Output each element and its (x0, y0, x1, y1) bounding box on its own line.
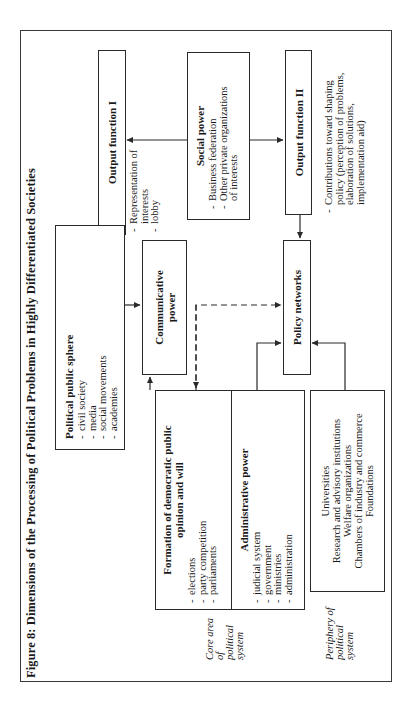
arrow-periphery-to-policy (312, 343, 345, 390)
output-function-1-title: Output function I (106, 101, 118, 184)
communicative-power-title-line2: power (165, 293, 177, 322)
social-power-box: Social power Business federation Other p… (187, 52, 250, 220)
formation-title-line2: opinion and will (173, 391, 185, 603)
core-area-label-line: system (235, 610, 245, 660)
periphery-institution: Welfare organizations (342, 445, 353, 537)
political-public-sphere-title: Political public sphere (63, 226, 75, 439)
social-power-item: Other private organizations of interests (219, 81, 240, 209)
administrative-power-section: Administrative power judicial system gov… (233, 391, 304, 609)
periphery-label-line: system (345, 600, 355, 660)
administrative-power-item: ministries (273, 391, 284, 603)
formation-list: elections party competition parliaments (187, 391, 219, 603)
policy-networks-title: Policy networks (291, 270, 303, 345)
output-function-1-box: Output function I (98, 50, 126, 235)
periphery-institution: Foundations (364, 465, 375, 517)
administrative-power-list: judicial system government ministries ad… (252, 391, 294, 603)
administrative-power-item: judicial system (252, 391, 263, 603)
communicative-power-title-line1: Communicative (153, 270, 165, 345)
dashed-arrow-to-policy (196, 305, 281, 390)
periphery-institution: Universities (320, 466, 331, 517)
administrative-power-item: administration (284, 391, 295, 603)
output-function-2-item: Contributions toward shaping policy (per… (324, 63, 366, 213)
periphery-institution: Research and advisory institutions (331, 419, 342, 563)
social-power-list: Business federation Other private organi… (208, 53, 240, 209)
output-function-1-item: Representation of interests (129, 132, 150, 232)
core-area-label-line: Core area of (205, 610, 225, 660)
political-public-sphere-box: Political public sphere civil society me… (55, 225, 125, 450)
output-function-2-list: Contributions toward shaping policy (per… (324, 63, 366, 213)
core-political-system-box: Formation of democratic public opinion a… (155, 390, 305, 610)
periphery-institutions-box: Universities Research and advisory insti… (310, 390, 385, 592)
formation-item: parliaments (208, 391, 219, 603)
output-function-2-title: Output function II (293, 89, 305, 176)
output-function-1-item: lobby (150, 132, 161, 232)
formation-section: Formation of democratic public opinion a… (156, 391, 232, 609)
political-public-sphere-item: social movements (98, 226, 109, 439)
output-function-2-box: Output function II (285, 50, 312, 215)
formation-item: elections (187, 391, 198, 603)
formation-title-line1: Formation of democratic public (161, 391, 173, 603)
core-area-label: Core area of political system (205, 610, 245, 660)
arrow-admin-to-policy (257, 343, 281, 390)
periphery-institution: Chambers of industry and commerce (353, 413, 364, 568)
social-power-item: Business federation (208, 53, 219, 209)
administrative-power-title: Administrative power (238, 391, 250, 603)
political-public-sphere-item: academies (109, 226, 120, 439)
communicative-power-box: Communicative power (142, 240, 187, 375)
output-function-1-list: Representation of interests lobby (129, 132, 161, 232)
rotated-figure-page: Figure 8: Dimensions of the Processing o… (0, 0, 411, 726)
social-power-title: Social power (194, 53, 206, 209)
political-public-sphere-item: civil society (77, 226, 88, 439)
periphery-label: Periphery of political system (325, 600, 355, 660)
political-public-sphere-list: civil society media social movements aca… (77, 226, 119, 439)
policy-networks-box: Policy networks (283, 240, 311, 375)
